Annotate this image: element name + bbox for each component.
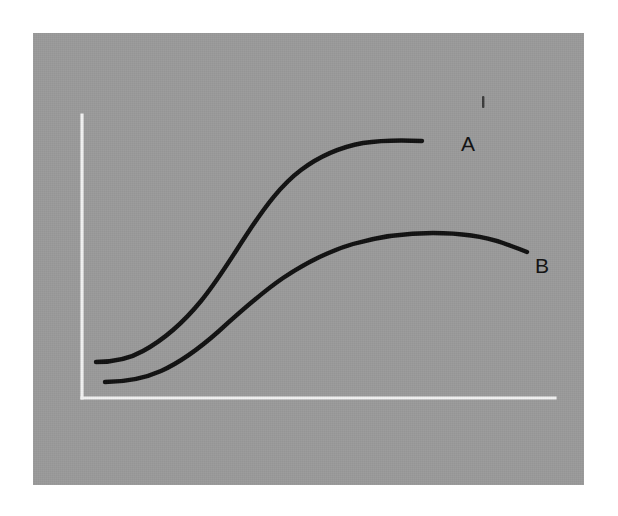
curve-b-path: [105, 233, 527, 382]
curve-a-path: [96, 140, 422, 362]
figure-root: A B: [0, 0, 618, 516]
curve-label-b: B: [535, 255, 550, 276]
plot-panel: A B: [33, 33, 584, 485]
plot-canvas: [33, 33, 584, 485]
curve-label-a: A: [461, 133, 476, 154]
stray-ink-mark-icon: [482, 96, 484, 108]
